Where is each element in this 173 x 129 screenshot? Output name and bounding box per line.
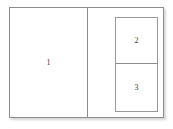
pane-2-label: 2 [135, 37, 139, 45]
pane-3-label: 3 [135, 84, 139, 92]
nested-box: 2 3 [115, 17, 158, 112]
outer-frame: 1 2 3 [9, 7, 164, 118]
pane-1[interactable]: 1 [10, 8, 87, 117]
right-region: 2 3 [88, 8, 163, 117]
pane-3[interactable]: 3 [116, 64, 157, 111]
layout-canvas: 1 2 3 [0, 0, 173, 129]
pane-1-label: 1 [47, 59, 51, 67]
pane-2[interactable]: 2 [116, 18, 157, 63]
